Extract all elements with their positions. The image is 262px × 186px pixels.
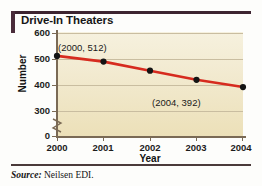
x-tick-2002 [150,137,151,141]
y-axis-title: Number [17,44,28,104]
source-label: Source: [11,170,42,180]
x-tick-label-2002: 2002 [130,142,170,153]
x-tick-2003 [196,137,197,141]
source-divider [11,164,251,166]
x-tick-label-2004: 2004 [221,142,261,153]
data-point-2002 [147,68,153,74]
y-tick-label-0: 0 [16,130,50,141]
y-tick-label-300: 300 [16,105,50,116]
y-tick-label-600: 600 [16,27,50,38]
chart-figure: Drive-In Theaters 600 500 400 300 0 2000… [0,0,262,186]
source-line: Source: Neilsen EDI. [11,170,94,180]
data-point-2001 [100,59,106,65]
source-value: Neilsen EDI. [44,170,94,180]
x-tick-2000 [57,137,58,141]
x-tick-2001 [103,137,104,141]
x-axis-title: Year [57,153,243,164]
x-tick-label-2000: 2000 [37,142,77,153]
data-point-2000 [54,53,60,59]
x-tick-label-2003: 2003 [176,142,216,153]
x-tick-2004 [242,137,243,141]
x-tick-label-2001: 2001 [83,142,123,153]
annotation-first-point: (2000, 512) [58,42,107,53]
data-point-2004 [240,84,246,90]
annotation-last-point: (2004, 392) [152,97,201,108]
data-point-2003 [193,77,199,83]
